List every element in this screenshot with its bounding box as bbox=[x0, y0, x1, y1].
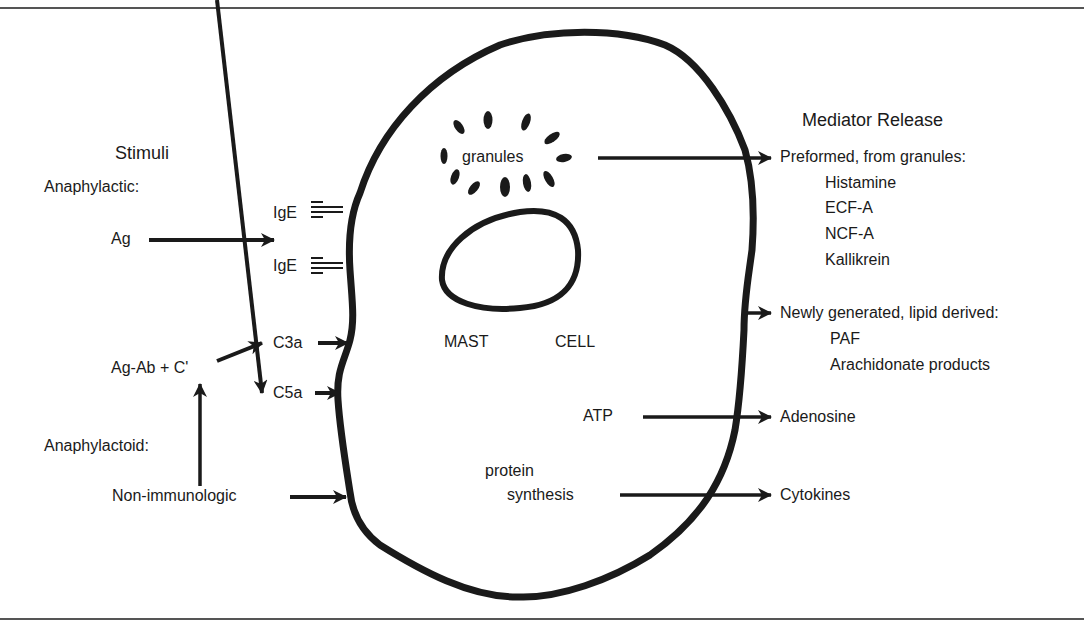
mediator-cytokines: Cytokines bbox=[780, 486, 850, 504]
newly-generated-heading: Newly generated, lipid derived: bbox=[780, 304, 999, 322]
granules-label: granules bbox=[462, 148, 523, 166]
mediator-kallikrein: Kallikrein bbox=[825, 251, 890, 269]
ige-bottom-label: IgE bbox=[273, 257, 297, 275]
mediator-release-heading: Mediator Release bbox=[802, 110, 943, 130]
stimuli-heading: Stimuli bbox=[115, 143, 169, 163]
cell-membrane bbox=[338, 32, 753, 597]
nucleus bbox=[442, 211, 578, 309]
mediator-arachidonate: Arachidonate products bbox=[830, 356, 990, 374]
c5a-branch-arrow bbox=[217, 0, 262, 393]
preformed-heading: Preformed, from granules: bbox=[780, 148, 966, 166]
ige-receptor-top bbox=[311, 202, 343, 217]
mediator-histamine: Histamine bbox=[825, 174, 896, 192]
atp-label: ATP bbox=[583, 407, 613, 425]
c5a-label: C5a bbox=[273, 384, 302, 402]
cell-label: CELL bbox=[555, 333, 595, 351]
ige-receptor-bottom bbox=[311, 258, 343, 273]
c3a-label: C3a bbox=[273, 334, 302, 352]
synthesis-label: synthesis bbox=[507, 486, 574, 504]
anaphylactic-label: Anaphylactic: bbox=[44, 178, 139, 196]
non-immunologic-label: Non-immunologic bbox=[112, 487, 237, 505]
antigen-label: Ag bbox=[111, 230, 131, 248]
complex-label: Ag-Ab + C' bbox=[111, 359, 188, 377]
ige-top-label: IgE bbox=[273, 204, 297, 222]
mediator-ecf-a: ECF-A bbox=[825, 199, 873, 217]
mediator-ncf-a: NCF-A bbox=[825, 225, 874, 243]
protein-label: protein bbox=[485, 462, 534, 480]
mediator-paf: PAF bbox=[830, 330, 860, 348]
mediator-adenosine: Adenosine bbox=[780, 408, 856, 426]
mast-label: MAST bbox=[444, 333, 488, 351]
anaphylactoid-label: Anaphylactoid: bbox=[44, 437, 149, 455]
